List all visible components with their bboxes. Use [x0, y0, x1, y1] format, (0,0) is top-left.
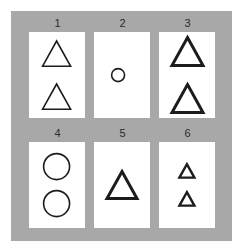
card-number-label: 2 [90, 16, 155, 31]
card-number-label: 5 [90, 126, 155, 141]
circle-shape-icon [109, 66, 127, 84]
triangle-shape-icon [40, 80, 73, 113]
card-face[interactable] [159, 142, 215, 228]
card-1[interactable]: 1 [25, 16, 90, 120]
card-6[interactable]: 6 [155, 126, 220, 230]
card-grid: 123456 [11, 11, 232, 241]
shape-slot [41, 151, 72, 182]
card-face[interactable] [29, 142, 85, 228]
card-face[interactable] [94, 142, 150, 228]
triangle-shape-icon [176, 188, 198, 210]
card-4[interactable]: 4 [25, 126, 90, 230]
shape-slot [176, 188, 198, 210]
shape-slot [168, 32, 207, 71]
shape-slot [168, 79, 207, 118]
card-number-label: 4 [25, 126, 90, 141]
triangle-shape-icon [176, 160, 198, 182]
card-5[interactable]: 5 [90, 126, 155, 230]
card-number-label: 6 [155, 126, 220, 141]
triangle-shape-icon [168, 79, 207, 118]
triangle-shape-icon [40, 37, 73, 70]
card-face[interactable] [159, 32, 215, 118]
circle-shape-icon [41, 151, 72, 182]
triangle-shape-icon [103, 166, 141, 204]
card-number-label: 3 [155, 16, 220, 31]
circle-shape-icon [41, 188, 72, 219]
shape-slot [40, 37, 73, 70]
card-number-label: 1 [25, 16, 90, 31]
shape-slot [41, 188, 72, 219]
shape-slot [176, 160, 198, 182]
triangle-shape-icon [168, 32, 207, 71]
shape-slot [103, 166, 141, 204]
card-face[interactable] [94, 32, 150, 118]
card-3[interactable]: 3 [155, 16, 220, 120]
card-2[interactable]: 2 [90, 16, 155, 120]
card-face[interactable] [29, 32, 85, 118]
shape-slot [40, 80, 73, 113]
shape-slot [109, 66, 127, 84]
stimulus-panel: 123456 [11, 11, 232, 241]
